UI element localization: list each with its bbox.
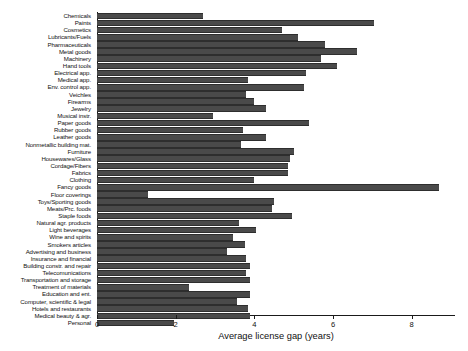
y-axis-tick-label: Chemicals <box>0 12 94 19</box>
y-axis-tick-label: Hand tools <box>0 62 94 69</box>
bar <box>97 320 174 327</box>
y-axis-tick-label: Env. control app. <box>0 83 94 90</box>
bar-row <box>97 226 455 233</box>
y-axis-tick-label: Housewares/Glass <box>0 155 94 162</box>
bar-row <box>97 55 455 62</box>
x-axis-tick-label: 4 <box>252 320 256 329</box>
y-axis-tick-label: Building constr. and repair <box>0 262 94 269</box>
bar-row <box>97 33 455 40</box>
bar-row <box>97 19 455 26</box>
y-axis-tick-label: Electrical app. <box>0 69 94 76</box>
y-axis-tick-label: Personal <box>0 319 94 326</box>
y-axis-tick-label: Telecomunications <box>0 269 94 276</box>
bar-row <box>97 126 455 133</box>
y-axis-tick-label: Metal goods <box>0 48 94 55</box>
bar-row <box>97 319 455 326</box>
y-axis-tick-label: Cosmetics <box>0 26 94 33</box>
bar-row <box>97 248 455 255</box>
x-axis-tick <box>412 315 413 319</box>
bar-row <box>97 155 455 162</box>
bar-row <box>97 269 455 276</box>
plot-area <box>97 12 455 315</box>
bar-series <box>97 12 455 315</box>
y-axis-tick-label: Paints <box>0 19 94 26</box>
bar-row <box>97 48 455 55</box>
bar-row <box>97 148 455 155</box>
bar-row <box>97 290 455 297</box>
bar-row <box>97 212 455 219</box>
y-axis-tick-label: Education and ent. <box>0 290 94 297</box>
bar-row <box>97 162 455 169</box>
bar-row <box>97 76 455 83</box>
y-axis-tick-label: Fabrics <box>0 169 94 176</box>
y-axis-tick-label: Rubber goods <box>0 126 94 133</box>
bar-row <box>97 305 455 312</box>
y-axis-tick-label: Treatment of materials <box>0 283 94 290</box>
y-axis-tick-label: Advertising and business <box>0 248 94 255</box>
y-axis-tick-label: Light beverages <box>0 226 94 233</box>
y-axis-tick-label: Lubricants/Fuels <box>0 33 94 40</box>
bar-row <box>97 191 455 198</box>
bar-row <box>97 26 455 33</box>
x-axis-tick-label: 2 <box>174 320 178 329</box>
bar-row <box>97 241 455 248</box>
y-axis-tick-label: Wine and spirits <box>0 233 94 240</box>
bar-row <box>97 91 455 98</box>
bar-row <box>97 141 455 148</box>
bar-row <box>97 183 455 190</box>
bar-row <box>97 298 455 305</box>
bar-row <box>97 205 455 212</box>
y-axis-tick-label: Musical instr. <box>0 112 94 119</box>
y-axis-tick-label: Insurance and financial <box>0 255 94 262</box>
x-axis-tick <box>333 315 334 319</box>
y-axis-tick-label: Pharmaceuticals <box>0 41 94 48</box>
y-axis-tick-label: Clothing <box>0 176 94 183</box>
y-axis-tick-label: Transportation and storage <box>0 276 94 283</box>
x-axis-tick <box>254 315 255 319</box>
bar-row <box>97 255 455 262</box>
y-axis-tick-label: Medical app. <box>0 76 94 83</box>
y-axis-tick-label: Meats/Prc. foods <box>0 205 94 212</box>
y-axis-tick-label: Toys/Sporting goods <box>0 198 94 205</box>
y-axis-tick-label: Leather goods <box>0 133 94 140</box>
bar-row <box>97 112 455 119</box>
y-axis-tick-label: Nonmetallic building mat. <box>0 141 94 148</box>
bar-row <box>97 219 455 226</box>
y-axis-tick-label: Natural agr. products <box>0 219 94 226</box>
bar-row <box>97 262 455 269</box>
bar-chart: ChemicalsPaintsCosmeticsLubricants/Fuels… <box>0 0 468 351</box>
y-axis-category-labels: ChemicalsPaintsCosmeticsLubricants/Fuels… <box>0 12 94 315</box>
y-axis-tick-label: Staple foods <box>0 212 94 219</box>
bar-row <box>97 41 455 48</box>
y-axis-tick-label: Firearms <box>0 98 94 105</box>
y-axis-tick-label: Computer, scientific & legal <box>0 298 94 305</box>
y-axis-tick-label: Fancy goods <box>0 183 94 190</box>
x-axis-tick <box>97 315 98 319</box>
x-axis-tick-label: 6 <box>331 320 335 329</box>
y-axis-tick-label: Floor coverings <box>0 191 94 198</box>
bar-row <box>97 176 455 183</box>
bar-row <box>97 312 455 319</box>
bar-row <box>97 283 455 290</box>
bar-row <box>97 133 455 140</box>
y-axis-tick-label: Veichles <box>0 91 94 98</box>
bar-row <box>97 12 455 19</box>
bar-row <box>97 169 455 176</box>
bar-row <box>97 62 455 69</box>
x-axis-tick-label: 0 <box>95 320 99 329</box>
bar-row <box>97 276 455 283</box>
y-axis-tick-label: Paper goods <box>0 119 94 126</box>
y-axis-tick-label: Furniture <box>0 148 94 155</box>
bar-row <box>97 233 455 240</box>
y-axis-tick-label: Hotels and restaurants <box>0 305 94 312</box>
bar-row <box>97 119 455 126</box>
y-axis-tick-label: Medical beauty & agr. <box>0 312 94 319</box>
y-axis-tick-label: Jewelry <box>0 105 94 112</box>
bar-row <box>97 83 455 90</box>
x-axis-title: Average license gap (years) <box>97 331 455 341</box>
bar-row <box>97 198 455 205</box>
bar-row <box>97 98 455 105</box>
y-axis-tick-label: Smokers articles <box>0 241 94 248</box>
bar-row <box>97 69 455 76</box>
y-axis-tick-label: Machinery <box>0 55 94 62</box>
